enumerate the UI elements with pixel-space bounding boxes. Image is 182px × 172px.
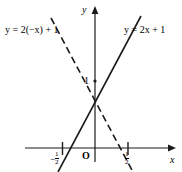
equation-label-left: y = 2(−x) + 1 xyxy=(5,25,59,35)
fraction-one-half: 12 xyxy=(125,151,129,167)
equation-label-right: y = 2x + 1 xyxy=(124,25,165,35)
graph-figure: y = 2(−x) + 1 y = 2x + 1 y x O 1 −12 12 xyxy=(0,0,182,172)
y-axis-label: y xyxy=(82,5,86,15)
origin-label: O xyxy=(82,151,90,161)
x-axis-label: x xyxy=(170,155,174,165)
x-tick-label-positive-half: 12 xyxy=(125,152,129,168)
x-tick-label-negative-half: −12 xyxy=(50,152,59,168)
x-axis-arrowhead xyxy=(168,145,176,152)
intersection-point xyxy=(93,79,96,82)
y-axis-arrowhead xyxy=(92,6,99,14)
fraction-one-half: 12 xyxy=(55,151,59,167)
y-intercept-label: 1 xyxy=(84,76,89,86)
line-dashed-y-2negx-plus-1 xyxy=(51,18,133,172)
